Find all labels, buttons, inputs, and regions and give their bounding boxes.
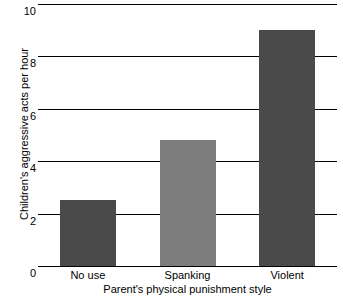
y-axis-tick-label: 2	[20, 215, 36, 227]
y-axis-tick-label: 10	[20, 5, 36, 17]
x-axis-tick-label: Spanking	[138, 268, 238, 282]
plot-area	[38, 4, 337, 266]
x-axis-tick-label: Violent	[237, 268, 337, 282]
bar	[160, 140, 216, 266]
x-axis-title: Parent's physical punishment style	[38, 282, 337, 296]
y-axis-tick-label: 0	[20, 267, 36, 279]
bar	[259, 30, 315, 266]
y-axis-tick-label: 6	[20, 110, 36, 122]
y-axis-tick-label: 8	[20, 57, 36, 69]
bar	[60, 200, 116, 266]
gridline	[38, 266, 337, 267]
gridline	[38, 4, 337, 5]
x-axis-tick-label: No use	[38, 268, 138, 282]
y-axis-title: Children's aggressive acts per hour	[16, 0, 32, 268]
bar-chart: Children's aggressive acts per hour 0246…	[0, 0, 343, 298]
y-axis-tick-label: 4	[20, 162, 36, 174]
